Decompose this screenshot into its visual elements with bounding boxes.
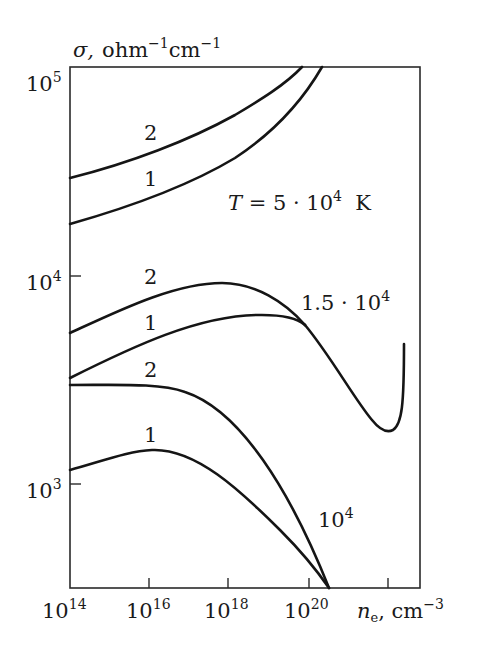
curve-1.5e4-2 xyxy=(70,283,305,333)
curve-1.5e4-merged xyxy=(305,325,404,431)
curve-5e4-2 xyxy=(70,67,302,178)
chart-figure: 1014 1016 1018 1020 ne, cm−3 105 104 103… xyxy=(0,0,491,662)
label-1e4-curve-2: 2 xyxy=(144,358,157,382)
annotation-t-5e4: T = 5 · 104 K xyxy=(228,188,371,215)
x-axis-title: ne, cm−3 xyxy=(357,596,444,625)
curve-1.5e4-1 xyxy=(70,315,305,378)
x-tick-label-1e14: 1014 xyxy=(42,596,87,623)
x-tick-label-1e16: 1016 xyxy=(126,596,171,623)
y-axis-title: σ,ohm−1cm−1 xyxy=(73,35,221,62)
curve-labels: 2 1 2 1 2 1 xyxy=(144,121,157,447)
annotation-t-1e4: 104 xyxy=(318,505,354,532)
curves xyxy=(70,67,404,588)
label-1.5e4-curve-1: 1 xyxy=(144,311,157,335)
y-tick-label-1e5: 105 xyxy=(26,69,62,96)
y-axis-ticks xyxy=(70,276,81,484)
y-axis-tick-labels: 105 104 103 xyxy=(26,69,62,503)
x-tick-label-1e18: 1018 xyxy=(204,596,249,623)
x-tick-label-1e20: 1020 xyxy=(284,596,329,623)
y-tick-label-1e3: 103 xyxy=(26,476,62,503)
curve-1e4-2 xyxy=(70,385,329,588)
plot-frame xyxy=(70,67,420,588)
y-tick-label-1e4: 104 xyxy=(26,268,62,295)
label-5e4-curve-2: 2 xyxy=(144,121,157,145)
x-axis-ticks xyxy=(149,578,388,588)
label-5e4-curve-1: 1 xyxy=(144,167,157,191)
label-1.5e4-curve-2: 2 xyxy=(144,265,157,289)
annotation-t-1.5e4: 1.5 · 104 xyxy=(301,288,390,315)
x-axis-tick-labels: 1014 1016 1018 1020 xyxy=(42,596,329,623)
curve-1e4-1 xyxy=(70,450,329,588)
label-1e4-curve-1: 1 xyxy=(144,423,157,447)
